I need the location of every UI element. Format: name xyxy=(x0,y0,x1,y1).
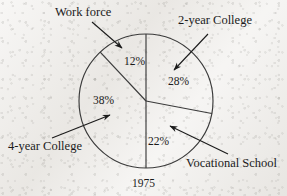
figure-page: Work force 2-year College 4-year College… xyxy=(0,0,287,196)
slice-value-two-year-college: 28% xyxy=(168,76,189,88)
slice-value-work-force: 12% xyxy=(124,56,145,68)
slice-value-four-year-college: 38% xyxy=(93,95,114,107)
callout-arrow-work-force xyxy=(92,22,122,48)
slice-value-vocational-school: 22% xyxy=(148,136,169,148)
callout-arrow-vocational-school xyxy=(170,126,228,154)
callout-label-work-force: Work force xyxy=(55,6,111,19)
callout-label-vocational-school: Vocational School xyxy=(186,157,277,170)
slice-divider-28pct xyxy=(146,101,212,114)
callout-label-four-year-college: 4-year College xyxy=(8,140,82,153)
figure-caption-year: 1975 xyxy=(132,178,155,190)
callout-label-two-year-college: 2-year College xyxy=(178,14,252,27)
